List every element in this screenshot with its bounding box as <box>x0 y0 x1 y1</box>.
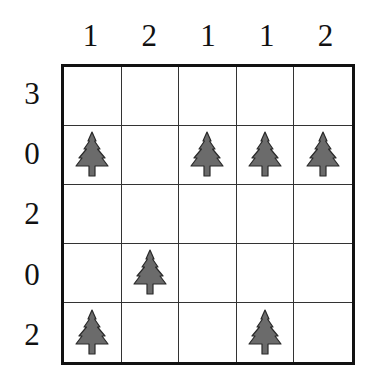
grid-cell[interactable] <box>64 67 122 126</box>
row-clue: 0 <box>14 124 50 184</box>
tree-icon <box>248 309 282 357</box>
tents-puzzle: 1 2 1 1 2 3 0 2 0 2 <box>0 0 371 389</box>
grid-cell[interactable] <box>294 67 352 126</box>
grid-cell[interactable] <box>122 303 180 362</box>
column-clue: 2 <box>296 16 355 56</box>
grid-cell[interactable] <box>122 67 180 126</box>
grid-cell[interactable] <box>179 67 237 126</box>
tree-icon <box>306 131 340 179</box>
tree-icon <box>190 131 224 179</box>
grid-cell[interactable] <box>64 126 122 185</box>
grid-cell[interactable] <box>294 185 352 244</box>
grid-cell[interactable] <box>237 185 295 244</box>
grid-cell[interactable] <box>179 303 237 362</box>
grid-cell[interactable] <box>294 244 352 303</box>
row-clue: 2 <box>14 305 50 365</box>
row-clue: 2 <box>14 184 50 244</box>
grid-cell[interactable] <box>64 303 122 362</box>
tree-icon <box>248 131 282 179</box>
grid-cell[interactable] <box>237 303 295 362</box>
grid-cell[interactable] <box>294 126 352 185</box>
grid-cell[interactable] <box>237 126 295 185</box>
column-clue: 1 <box>61 16 120 56</box>
column-clue: 1 <box>237 16 296 56</box>
row-clues: 3 0 2 0 2 <box>14 64 50 365</box>
tree-icon <box>75 309 109 357</box>
tree-icon <box>75 131 109 179</box>
grid-cell[interactable] <box>237 67 295 126</box>
grid-cell[interactable] <box>64 185 122 244</box>
grid-cell[interactable] <box>122 185 180 244</box>
row-clue: 3 <box>14 64 50 124</box>
grid-cell[interactable] <box>179 126 237 185</box>
tree-icon <box>133 249 167 297</box>
grid-cell[interactable] <box>179 185 237 244</box>
column-clues: 1 2 1 1 2 <box>61 16 355 56</box>
grid-cell[interactable] <box>237 244 295 303</box>
grid-cell[interactable] <box>179 244 237 303</box>
column-clue: 2 <box>120 16 179 56</box>
grid-cell[interactable] <box>64 244 122 303</box>
column-clue: 1 <box>179 16 238 56</box>
puzzle-grid <box>61 64 355 365</box>
grid-cell[interactable] <box>122 126 180 185</box>
row-clue: 0 <box>14 245 50 305</box>
grid-cell[interactable] <box>294 303 352 362</box>
grid-cell[interactable] <box>122 244 180 303</box>
